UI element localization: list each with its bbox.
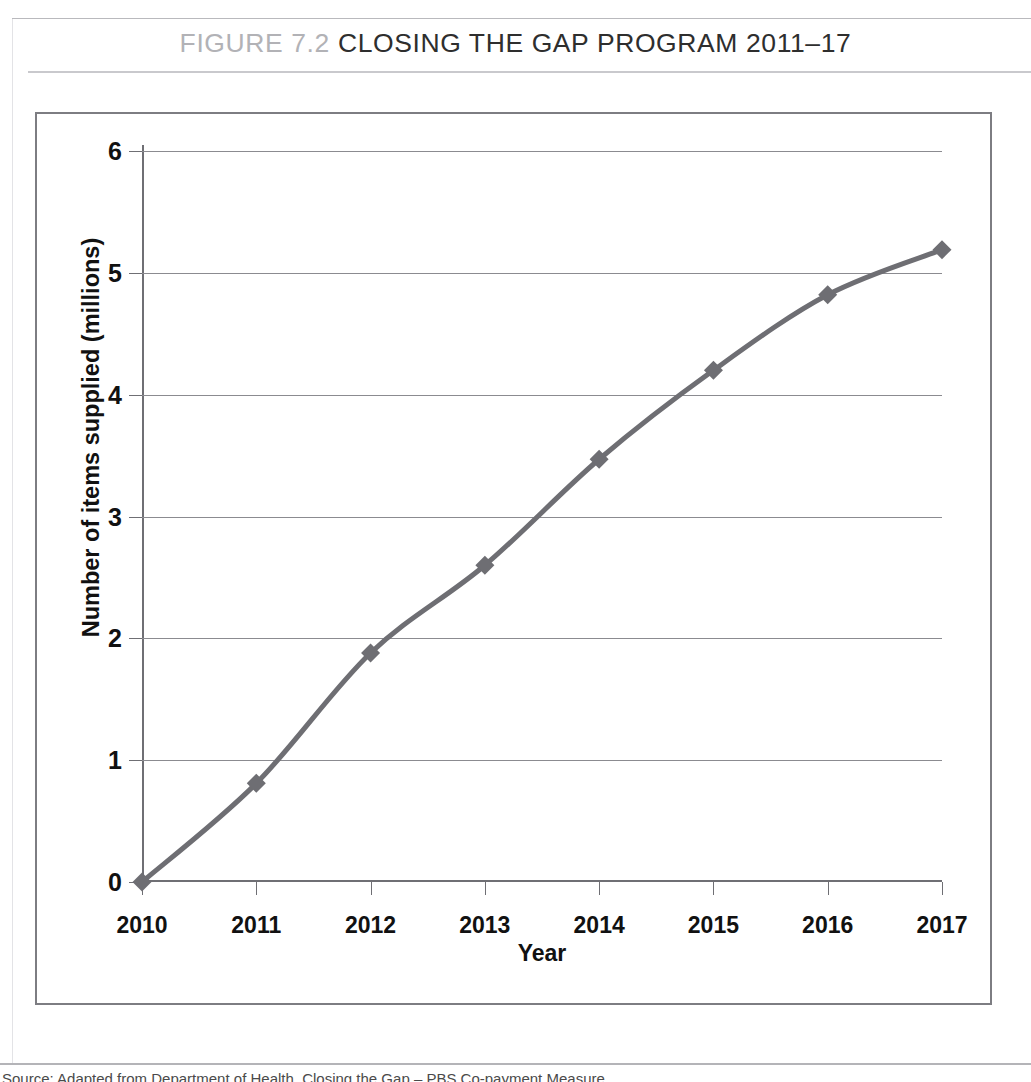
y-axis-tick-label: 2 bbox=[86, 624, 122, 653]
x-axis-tick-label: 2012 bbox=[311, 912, 431, 939]
page-top-rule bbox=[12, 18, 1031, 19]
page-left-rule bbox=[12, 18, 13, 1063]
y-axis-tick bbox=[129, 151, 142, 152]
y-axis-tick-label: 1 bbox=[86, 746, 122, 775]
figure-number: FIGURE 7.2 bbox=[180, 28, 330, 58]
x-axis-tick-label: 2015 bbox=[653, 912, 773, 939]
x-axis-tick-label: 2013 bbox=[425, 912, 545, 939]
y-axis-tick bbox=[129, 638, 142, 639]
y-axis-tick bbox=[129, 760, 142, 761]
x-axis-tick bbox=[485, 882, 486, 895]
y-axis-tick-label: 3 bbox=[86, 502, 122, 531]
y-axis-tick bbox=[129, 273, 142, 274]
x-axis-tick-label: 2017 bbox=[882, 912, 1002, 939]
y-axis-tick-label: 5 bbox=[86, 258, 122, 287]
x-axis-tick-label: 2011 bbox=[196, 912, 316, 939]
figure-frame: Number of items supplied (millions) Year… bbox=[35, 112, 992, 1005]
x-axis-tick bbox=[371, 882, 372, 895]
figure-title: FIGURE 7.2 CLOSING THE GAP PROGRAM 2011–… bbox=[0, 28, 1031, 59]
data-point-marker bbox=[933, 240, 952, 259]
x-axis-tick bbox=[942, 882, 943, 895]
x-axis-tick bbox=[828, 882, 829, 895]
y-axis-tick-label: 6 bbox=[86, 137, 122, 166]
x-axis-tick bbox=[713, 882, 714, 895]
y-axis-tick bbox=[129, 395, 142, 396]
x-axis-tick-label: 2016 bbox=[768, 912, 888, 939]
x-axis-tick-label: 2010 bbox=[82, 912, 202, 939]
y-axis-tick-label: 4 bbox=[86, 380, 122, 409]
data-point-marker bbox=[818, 285, 837, 304]
data-series-layer bbox=[142, 151, 942, 882]
plot-area: 0123456 20102011201220132014201520162017 bbox=[142, 151, 942, 882]
x-axis-tick bbox=[256, 882, 257, 895]
figure-name: CLOSING THE GAP PROGRAM 2011–17 bbox=[338, 28, 851, 58]
y-axis-tick bbox=[129, 517, 142, 518]
x-axis-title: Year bbox=[142, 940, 942, 967]
title-underline-rule bbox=[28, 71, 1031, 73]
figure-source-caption: Source: Adapted from Department of Healt… bbox=[2, 1070, 1031, 1082]
x-axis-tick-label: 2014 bbox=[539, 912, 659, 939]
x-axis-tick bbox=[599, 882, 600, 895]
y-axis-tick-label: 0 bbox=[86, 868, 122, 897]
series-line bbox=[142, 250, 942, 882]
page-bottom-rule bbox=[0, 1063, 1031, 1065]
